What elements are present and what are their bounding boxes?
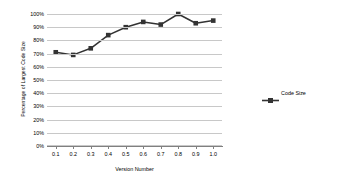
data-point-marker bbox=[193, 21, 198, 26]
series-line bbox=[56, 14, 214, 55]
data-point-marker bbox=[211, 18, 216, 23]
x-tick-mark bbox=[213, 146, 214, 149]
x-tick-mark bbox=[143, 146, 144, 149]
gridline bbox=[47, 93, 222, 94]
data-point-marker bbox=[106, 33, 111, 38]
x-tick-mark bbox=[56, 146, 57, 149]
y-tick-label: 90% bbox=[20, 24, 44, 30]
x-axis-tick-labels: 0.10.20.30.40.50.60.70.80.91.0 bbox=[47, 151, 222, 161]
chart-legend: Code Size bbox=[262, 90, 306, 97]
y-tick-label: 0% bbox=[20, 143, 44, 149]
legend-marker-icon bbox=[262, 90, 279, 97]
x-tick-mark bbox=[73, 146, 74, 149]
data-point-marker bbox=[88, 46, 93, 51]
y-tick-label: 100% bbox=[20, 11, 44, 17]
gridline bbox=[47, 14, 222, 15]
gridline bbox=[47, 133, 222, 134]
y-tick-label: 30% bbox=[20, 103, 44, 109]
chart-container: Percentage of Largest Code Size 0%10%20%… bbox=[0, 0, 339, 188]
gridline bbox=[47, 67, 222, 68]
y-tick-label: 70% bbox=[20, 51, 44, 57]
y-axis-tick-labels: 0%10%20%30%40%50%60%70%80%90%100% bbox=[20, 14, 44, 146]
gridline bbox=[47, 80, 222, 81]
x-tick-mark bbox=[126, 146, 127, 149]
data-point-marker bbox=[141, 20, 146, 25]
x-tick-mark bbox=[178, 146, 179, 149]
x-tick-label: 1.0 bbox=[202, 151, 224, 158]
x-tick-mark bbox=[91, 146, 92, 149]
y-tick-label: 50% bbox=[20, 77, 44, 83]
gridline bbox=[47, 54, 222, 55]
gridline bbox=[47, 106, 222, 107]
plot-area bbox=[47, 14, 222, 146]
gridline bbox=[47, 27, 222, 28]
y-tick-label: 40% bbox=[20, 90, 44, 96]
x-tick-mark bbox=[108, 146, 109, 149]
x-axis-title: Version Number bbox=[47, 166, 222, 173]
legend-label-code-size: Code Size bbox=[281, 90, 306, 97]
gridline bbox=[47, 120, 222, 121]
y-tick-label: 20% bbox=[20, 117, 44, 123]
x-tick-mark bbox=[161, 146, 162, 149]
y-tick-label: 10% bbox=[20, 130, 44, 136]
x-tick-mark bbox=[196, 146, 197, 149]
data-point-marker bbox=[158, 22, 163, 27]
y-tick-label: 80% bbox=[20, 37, 44, 43]
y-tick-label: 60% bbox=[20, 64, 44, 70]
gridline bbox=[47, 40, 222, 41]
